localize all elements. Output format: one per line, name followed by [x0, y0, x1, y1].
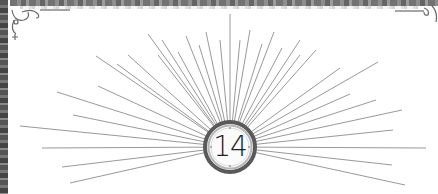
- corner-flourish-right-icon: [395, 6, 437, 22]
- corner-flourish-left-icon: [12, 10, 70, 40]
- chapter-number: 14: [205, 129, 255, 165]
